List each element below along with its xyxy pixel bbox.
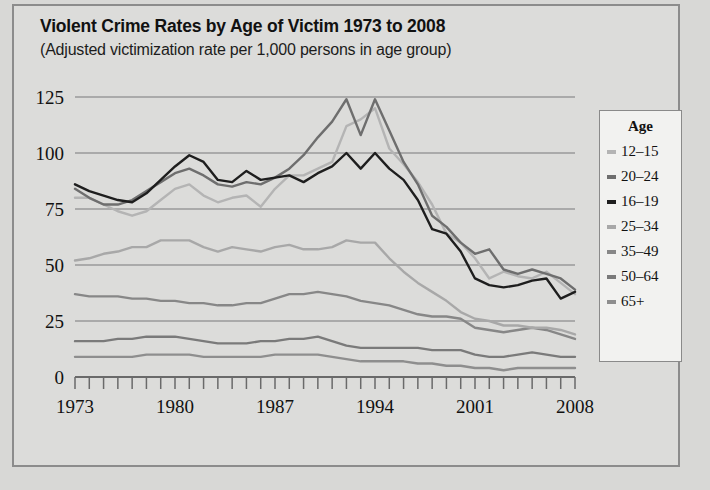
- legend-title: Age: [600, 118, 681, 135]
- x-axis-labels-group: 197319801987199420012008: [56, 396, 594, 417]
- legend-swatch-icon: [607, 175, 616, 179]
- legend-swatch-icon: [607, 275, 616, 279]
- x-axis-tick-label: 1987: [256, 396, 294, 417]
- legend-item-label: 35–49: [621, 243, 659, 260]
- legend-item[interactable]: 25–34: [600, 218, 681, 235]
- y-axis-tick-label: 50: [45, 255, 64, 276]
- legend-item-label: 65+: [621, 293, 644, 310]
- x-axis-tick-label: 1994: [356, 396, 395, 417]
- y-axis-tick-label: 0: [55, 367, 65, 388]
- legend-item-label: 50–64: [621, 268, 659, 285]
- legend-item[interactable]: 20–24: [600, 168, 681, 185]
- legend-item-label: 12–15: [621, 143, 659, 160]
- legend-rows: 12–1520–2416–1925–3435–4950–6465+: [600, 143, 681, 310]
- figure-panel: Violent Crime Rates by Age of Victim 197…: [12, 4, 680, 467]
- x-axis-tick-label: 2001: [456, 396, 494, 417]
- series-line-20-24: [75, 99, 575, 289]
- legend-swatch-icon: [607, 150, 616, 154]
- legend-swatch-icon: [607, 225, 616, 229]
- legend-item-label: 20–24: [621, 168, 659, 185]
- line-chart-svg: 0255075100125 197319801987199420012008: [14, 6, 682, 469]
- series-lines-group: [75, 99, 575, 370]
- legend-item[interactable]: 50–64: [600, 268, 681, 285]
- legend-swatch-icon: [607, 300, 616, 304]
- legend-item[interactable]: 12–15: [600, 143, 681, 160]
- x-axis-tick-label: 2008: [556, 396, 594, 417]
- x-axis-tick-label: 1973: [56, 396, 94, 417]
- x-axis-tick-label: 1980: [156, 396, 194, 417]
- legend-swatch-icon: [607, 250, 616, 254]
- legend-item[interactable]: 16–19: [600, 193, 681, 210]
- plot-area: 0255075100125 197319801987199420012008: [14, 6, 682, 469]
- y-axis-tick-label: 25: [45, 311, 64, 332]
- legend-item[interactable]: 65+: [600, 293, 681, 310]
- legend-swatch-icon: [607, 200, 616, 204]
- y-axis-tick-label: 75: [45, 199, 64, 220]
- legend-item[interactable]: 35–49: [600, 243, 681, 260]
- y-axis-tick-label: 100: [36, 143, 65, 164]
- x-axis-group: [75, 377, 575, 389]
- series-line-16-19: [75, 153, 575, 299]
- y-axis-labels-group: 0255075100125: [36, 87, 65, 388]
- legend-item-label: 25–34: [621, 218, 659, 235]
- gridlines-group: [75, 97, 575, 377]
- legend-item-label: 16–19: [621, 193, 659, 210]
- legend: Age 12–1520–2416–1925–3435–4950–6465+: [599, 110, 682, 362]
- series-line-35-49: [75, 292, 575, 339]
- y-axis-tick-label: 125: [36, 87, 65, 108]
